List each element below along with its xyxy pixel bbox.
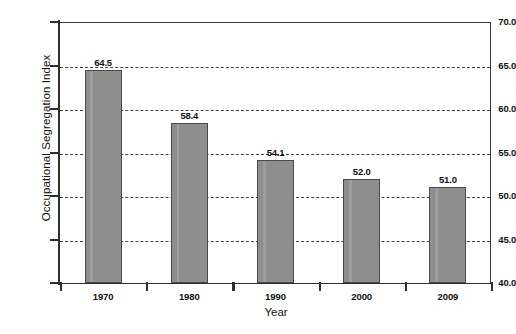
bar [343,179,380,283]
x-tick-mark [405,282,407,291]
y-tick-mark [50,152,59,154]
y-tick-label: 45.0 [470,234,516,245]
y-tick-mark [50,21,59,23]
x-axis-title: Year [60,306,492,318]
bar-highlight [263,161,266,282]
bar-highlight [177,124,180,282]
bar-highlight [90,71,93,282]
x-tick-label: 2000 [319,291,405,302]
x-tick-label: 2009 [405,291,491,302]
bar [257,160,294,283]
bar-value-label: 64.5 [60,57,146,68]
bar-value-label: 51.0 [405,174,491,185]
x-tick-mark [319,282,321,291]
bar [85,70,122,283]
y-tick-label: 60.0 [470,103,516,114]
y-tick-mark [50,282,59,284]
bar-chart: Occupational Segregation Index 40.045.05… [0,0,516,334]
y-tick-mark [50,65,59,67]
y-tick-mark [50,195,59,197]
y-tick-label: 65.0 [470,60,516,71]
bar-highlight [349,180,352,282]
bar-value-label: 58.4 [146,110,232,121]
bar-highlight [435,188,438,282]
y-tick-label: 50.0 [470,190,516,201]
x-tick-mark [60,282,62,291]
bar-value-label: 54.1 [232,147,318,158]
bar [171,123,208,283]
x-tick-label: 1970 [60,291,146,302]
x-tick-label: 1990 [232,291,318,302]
x-tick-mark [491,282,493,291]
x-tick-mark [146,282,148,291]
gridline [60,110,490,111]
y-tick-mark [50,108,59,110]
y-tick-label: 70.0 [470,16,516,27]
y-axis-title: Occupational Segregation Index [40,8,52,268]
y-tick-label: 55.0 [470,147,516,158]
x-tick-mark [232,282,234,291]
y-tick-mark [50,239,59,241]
bar-value-label: 52.0 [319,166,405,177]
bar [429,187,466,283]
x-tick-label: 1980 [146,291,232,302]
